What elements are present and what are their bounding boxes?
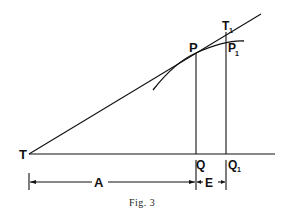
label-q1: Q (228, 158, 237, 172)
label-q: Q (196, 158, 205, 172)
figure-caption: Fig. 3 (129, 197, 155, 208)
label-p: P (189, 40, 198, 55)
figure-3: T T 1 P P 1 Q Q 1 A E Fig. 3 (0, 0, 285, 213)
label-a: A (94, 175, 104, 190)
label-e: E (205, 176, 213, 190)
arrowhead-e-left (197, 180, 201, 184)
label-t1-sub: 1 (229, 27, 233, 34)
arrowhead-a-right (189, 180, 195, 184)
diagram-canvas: T T 1 P P 1 Q Q 1 A E Fig. 3 (0, 0, 285, 213)
arrowhead-e-right (221, 180, 225, 184)
label-p1-sub: 1 (235, 50, 239, 57)
label-q1-sub: 1 (237, 166, 241, 173)
arrowhead-a-left (30, 180, 36, 184)
label-t: T (19, 147, 27, 162)
